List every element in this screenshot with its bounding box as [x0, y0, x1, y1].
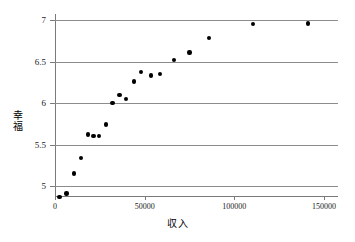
data-point — [79, 156, 83, 160]
data-point — [207, 36, 211, 40]
data-point — [97, 134, 101, 138]
y-tick-mark — [50, 103, 55, 104]
scatter-plot-figure: 幸福 55.566.57 050000100000150000 収入 — [0, 0, 355, 242]
x-axis-label: 収入 — [0, 218, 355, 229]
data-point — [187, 50, 191, 54]
x-tick-mark — [145, 196, 146, 200]
data-point — [124, 97, 128, 101]
y-axis-label-char: 福 — [12, 121, 24, 132]
x-tick-label: 0 — [53, 202, 57, 211]
y-tick-mark — [50, 62, 55, 63]
data-point — [57, 195, 61, 199]
x-tick-label: 50000 — [135, 202, 155, 211]
y-tick-label: 6.5 — [35, 57, 46, 66]
data-point — [132, 79, 136, 83]
y-tick-label: 5 — [42, 182, 47, 191]
x-tick-mark — [324, 196, 325, 200]
data-point — [86, 132, 90, 136]
data-point — [149, 73, 153, 77]
data-point — [139, 70, 143, 74]
data-point — [104, 122, 108, 126]
gridline-y — [55, 145, 338, 146]
gridline-y — [55, 186, 338, 187]
y-tick-mark — [50, 20, 55, 21]
y-tick-mark — [50, 186, 55, 187]
y-axis-label: 幸福 — [12, 110, 24, 132]
data-point — [110, 101, 114, 105]
x-tick-label: 150000 — [312, 202, 336, 211]
x-tick-label: 100000 — [222, 202, 246, 211]
data-point — [117, 93, 121, 97]
x-tick-mark — [55, 196, 56, 200]
y-tick-label: 5.5 — [35, 140, 46, 149]
y-tick-label: 6 — [42, 99, 47, 108]
y-tick-mark — [50, 145, 55, 146]
y-tick-label: 7 — [42, 16, 47, 25]
gridline-y — [55, 103, 338, 104]
data-point — [306, 21, 310, 25]
y-axis-line — [55, 14, 56, 196]
data-point — [251, 22, 255, 26]
x-tick-mark — [234, 196, 235, 200]
plot-area: 55.566.57 050000100000150000 — [50, 14, 338, 196]
data-point — [72, 171, 76, 175]
data-point — [158, 72, 162, 76]
y-axis-label-char: 幸 — [12, 110, 24, 121]
data-point — [64, 191, 68, 195]
x-axis-line — [55, 196, 338, 197]
data-point — [91, 134, 95, 138]
gridline-y — [55, 62, 338, 63]
gridline-y — [55, 20, 338, 21]
